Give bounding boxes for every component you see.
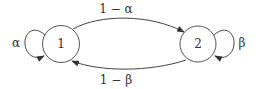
edge-2-to-1 [72,60,186,69]
self-loop-2 [214,30,234,57]
state-2-label: 2 [194,37,202,51]
edge-label-2-to-1: 1 − β [100,73,132,87]
self-loop-1 [25,30,45,57]
state-1-label: 1 [57,37,65,51]
self-loop-label-1: α [12,36,20,50]
self-loop-label-2: β [239,36,246,50]
edge-label-1-to-2: 1 − α [99,2,132,16]
markov-chain-diagram: 1 − α 1 − β α β 1 2 [0,0,259,89]
edge-1-to-2 [73,18,184,32]
